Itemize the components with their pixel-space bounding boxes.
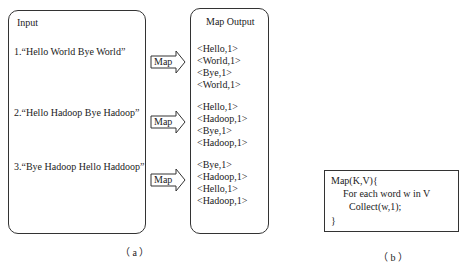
output-pair: <Hadoop,1> — [197, 137, 247, 149]
map-arrow-label: Map — [154, 174, 172, 186]
map-arrow-label: Map — [154, 56, 172, 68]
input-item-3: 3.“Bye Hadoop Hello Haddoop” — [14, 161, 145, 173]
map-output-title: Map Output — [206, 16, 255, 28]
output-pair: <Bye,1> — [197, 159, 232, 171]
map-arrow-1: Map — [150, 50, 186, 72]
input-box: Input 1.“Hello World Bye World” 2.“Hello… — [8, 10, 146, 234]
output-pair: <Hello,1> — [197, 183, 238, 195]
map-arrow-label: Map — [154, 116, 172, 128]
code-line-2: For each word w in V — [343, 188, 430, 200]
code-line-4: } — [331, 215, 336, 227]
output-pair: <Hadoop,1> — [197, 113, 247, 125]
code-line-1: Map(K,V){ — [331, 175, 378, 187]
output-pair: <Hello,1> — [197, 43, 238, 55]
map-arrow-2: Map — [150, 110, 186, 132]
output-pair: <World,1> — [197, 55, 241, 67]
output-pair: <Bye,1> — [197, 125, 232, 137]
map-function-code-box: Map(K,V){ For each word w in V Collect(w… — [324, 170, 459, 232]
caption-a: （ a ） — [120, 244, 149, 259]
map-output-box: Map Output <Hello,1> <World,1> <Bye,1> <… — [190, 8, 269, 234]
output-pair: <Hadoop,1> — [197, 195, 247, 207]
caption-b: （ b ） — [378, 249, 408, 264]
code-line-3: Collect(w,1); — [349, 201, 401, 213]
output-pair: <Hello,1> — [197, 101, 238, 113]
output-pair: <World,1> — [197, 79, 241, 91]
output-pair: <Bye,1> — [197, 67, 232, 79]
map-arrow-3: Map — [150, 168, 186, 190]
output-pair: <Hadoop,1> — [197, 171, 247, 183]
input-item-2: 2.“Hello Hadoop Bye Hadoop” — [14, 107, 140, 119]
input-item-1: 1.“Hello World Bye World” — [14, 46, 125, 58]
input-box-title: Input — [17, 17, 38, 29]
